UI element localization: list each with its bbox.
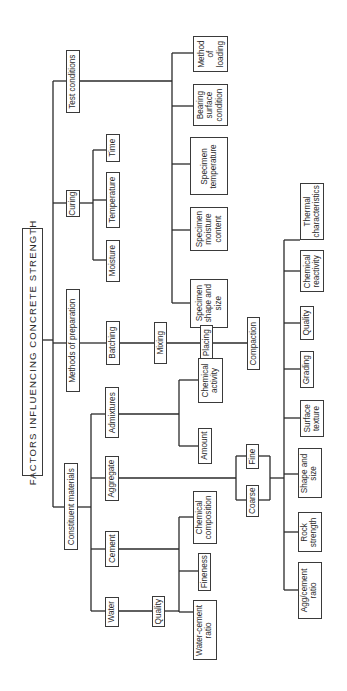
node-method-of-loading: Method of loading — [193, 36, 228, 72]
connector-lines — [0, 0, 347, 691]
node-amount: Amount — [198, 428, 212, 464]
node-quality: Quality — [300, 306, 314, 340]
node-batching: Batching — [106, 321, 120, 365]
node-shape-and-size: Shape and size — [298, 448, 322, 498]
node-curing: Curing — [66, 190, 80, 217]
node-moisture: Moisture — [106, 240, 120, 282]
node-fine: Fine — [246, 444, 259, 469]
node-chemical-activity: Chemical activity — [198, 358, 223, 403]
node-specimen-moisture-content: Specimen moisture content — [190, 207, 228, 251]
node-placing: Placing — [200, 325, 213, 361]
node-methods-of-preparation: Methods of preparation — [66, 289, 80, 392]
diagram-title: FACTORS INFLUENCING CONCRETE STRENGTH — [22, 228, 43, 476]
node-specimen-temperature: Specimen temperature — [190, 137, 228, 195]
concrete-strength-factors-diagram: FACTORS INFLUENCING CONCRETE STRENGTH Te… — [0, 0, 347, 691]
node-test-conditions: Test conditions — [66, 50, 80, 113]
node-fineness: Fineness — [198, 553, 211, 591]
node-admixtures: Admixtures — [105, 387, 119, 438]
node-compaction: Compaction — [247, 317, 260, 370]
node-agg-cement-ratio: Agg/cement ratio — [298, 562, 322, 619]
node-aggregate: Aggregate — [105, 456, 119, 501]
node-cement: Cement — [105, 531, 119, 567]
node-specimen-shape-and-size: Specimen shape and size — [190, 279, 228, 328]
node-water-quality: Quality — [152, 596, 165, 627]
node-water-cement-ratio: Water-cement ratio — [193, 600, 217, 660]
node-coarse: Coarse — [246, 485, 259, 517]
node-temperature: Temperature — [106, 172, 120, 228]
node-chemical-composition: Chemical composition — [193, 491, 217, 544]
node-rock-strength: Rock strength — [298, 512, 322, 552]
node-constituent-materials: Constituent materials — [64, 463, 78, 550]
node-time: Time — [106, 134, 120, 162]
node-mixing: Mixing — [154, 322, 167, 364]
node-grading: Grading — [300, 351, 314, 388]
node-water: Water — [105, 597, 119, 627]
node-thermal-characteristics: Thermal characteristics — [300, 183, 324, 240]
node-surface-texture: Surface texture — [300, 400, 324, 437]
node-bearing-surface-condition: Bearing surface condition — [193, 84, 228, 126]
node-chemical-reactivity: Chemical reactivity — [300, 250, 324, 292]
